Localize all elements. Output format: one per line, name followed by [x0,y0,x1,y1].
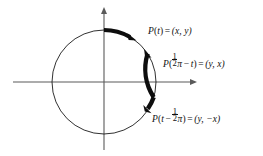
x-axis-arrowhead [190,79,197,85]
figure-canvas: P(t)=(x, y) P(12π−t)=(y, x) P(t−12π)=(y,… [0,0,263,156]
fraction-denominator-2: 2 [172,115,177,122]
label-p-of-t-point: (x, y) [172,26,192,36]
arc-phalf [144,49,154,97]
label-p-half-pi-minus-t: P(12π−t)=(y, x) [163,53,225,69]
arc-pt [104,30,137,41]
label-p-t-minus-half-pi-point: (y, −x) [194,114,220,124]
fraction-denominator: 2 [172,60,177,67]
label-p-of-t: P(t)=(x, y) [148,27,192,37]
fraction-one-half-2: 12 [172,108,177,122]
y-axis-arrowhead [101,7,107,14]
label-p-half-pi-minus-t-minus: − [182,59,190,69]
x-axis [13,79,197,85]
label-p-of-t-equals: = [163,26,171,36]
label-p-t-minus-half-pi-minus: − [164,114,172,124]
label-p-half-pi-minus-t-equals: = [197,59,205,69]
unit-circle-diagram [0,0,263,156]
label-p-t-minus-half-pi: P(t−12π)=(y, −x) [152,108,220,124]
label-p-t-minus-half-pi-equals: = [186,114,194,124]
fraction-one-half: 12 [172,53,177,67]
label-p-half-pi-minus-t-point: (y, x) [205,59,225,69]
